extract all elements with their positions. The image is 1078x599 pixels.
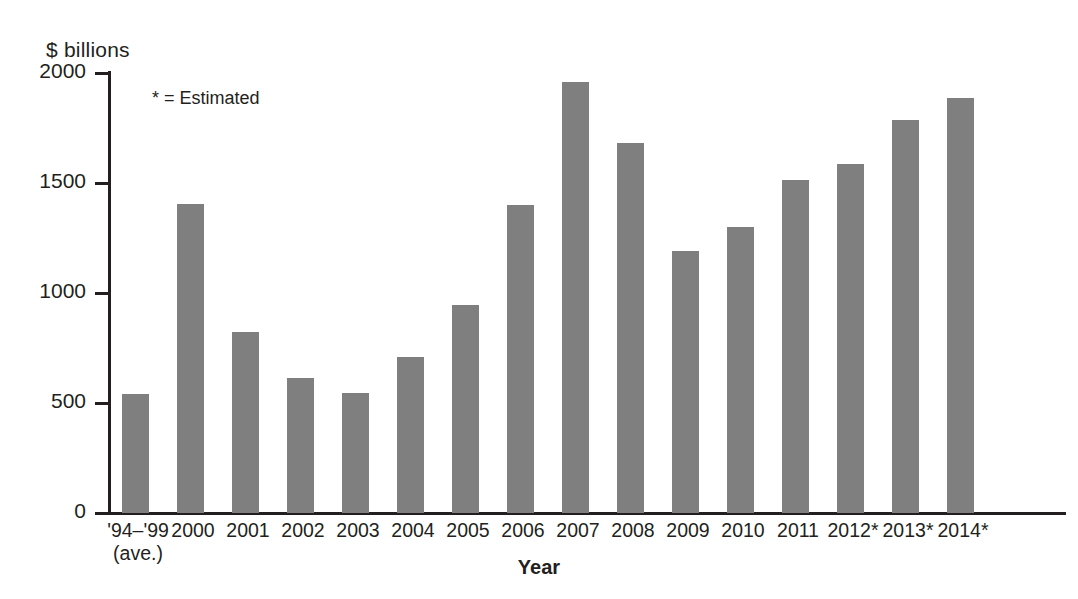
- bar: [342, 393, 369, 513]
- x-tick-label: 2011: [767, 519, 829, 542]
- x-tick-label-text: 2009: [666, 519, 709, 541]
- x-tick-label: 2009: [657, 519, 719, 542]
- x-tick-label: 2012*: [822, 519, 884, 542]
- y-tick-label: 500: [16, 389, 86, 413]
- x-tick-label-text: 2008: [611, 519, 654, 541]
- bar: [727, 227, 754, 513]
- bar: [672, 251, 699, 513]
- bar: [232, 332, 259, 514]
- bar: [177, 204, 204, 513]
- bar: [562, 82, 589, 513]
- x-tick-label-text: 2014*: [938, 519, 989, 541]
- y-tick-mark: [95, 72, 109, 75]
- x-tick-label-text: 2010: [721, 519, 764, 541]
- x-tick-label-text: 2001: [226, 519, 269, 541]
- y-tick-mark: [95, 292, 109, 295]
- y-tick-mark: [95, 402, 109, 405]
- bar: [397, 357, 424, 513]
- bar: [617, 143, 644, 513]
- x-tick-label: 2002: [272, 519, 334, 542]
- x-tick-label-text: 2002: [281, 519, 324, 541]
- x-tick-label: 2006: [492, 519, 554, 542]
- x-tick-label-text: 2000: [171, 519, 214, 541]
- bar: [122, 394, 149, 513]
- x-tick-label: 2008: [602, 519, 664, 542]
- x-tick-label-text: 2004: [391, 519, 434, 541]
- y-tick-label: 2000: [16, 59, 86, 83]
- bar: [837, 164, 864, 513]
- bars-layer: [108, 73, 1066, 513]
- x-tick-label: 2001: [217, 519, 279, 542]
- bar: [287, 378, 314, 513]
- y-tick-mark: [95, 512, 109, 515]
- x-tick-label: 2007: [547, 519, 609, 542]
- x-tick-label-text: 2013*: [883, 519, 934, 541]
- y-tick-mark: [95, 182, 109, 185]
- bar: [452, 305, 479, 513]
- bar: [507, 205, 534, 513]
- x-tick-label-text: 2005: [446, 519, 489, 541]
- x-tick-label-text: 2007: [556, 519, 599, 541]
- y-tick-label: 1000: [16, 279, 86, 303]
- x-tick-label: 2010: [712, 519, 774, 542]
- bar: [782, 180, 809, 513]
- bar-chart: $ billions * = Estimated 050010001500200…: [0, 0, 1078, 599]
- y-tick-label: 0: [16, 499, 86, 523]
- x-tick-label-text: '94–'99: [107, 519, 169, 541]
- x-tick-label-text: 2003: [336, 519, 379, 541]
- x-axis-title: Year: [0, 556, 1078, 579]
- x-tick-label-text: 2012*: [828, 519, 879, 541]
- x-tick-label: 2003: [327, 519, 389, 542]
- x-tick-label: 2014*: [932, 519, 994, 542]
- x-tick-label: 2005: [437, 519, 499, 542]
- bar: [892, 120, 919, 513]
- x-tick-label-text: 2011: [777, 519, 819, 541]
- x-tick-label: 2004: [382, 519, 444, 542]
- bar: [947, 98, 974, 513]
- x-tick-label: 2013*: [877, 519, 939, 542]
- x-tick-label-text: 2006: [501, 519, 544, 541]
- x-tick-label: 2000: [162, 519, 224, 542]
- y-tick-label: 1500: [16, 169, 86, 193]
